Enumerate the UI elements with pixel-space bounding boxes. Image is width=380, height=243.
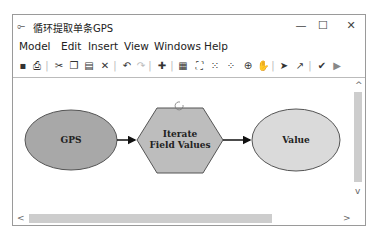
toolbar-separator: | bbox=[113, 59, 117, 73]
vertical-scroll-thumb[interactable] bbox=[354, 92, 362, 182]
menu-view[interactable]: View bbox=[124, 40, 149, 52]
horizontal-scrollbar[interactable]: < > bbox=[13, 212, 354, 225]
scroll-left-arrow[interactable]: < bbox=[17, 213, 25, 223]
save-icon[interactable]: ▪ bbox=[17, 59, 29, 73]
scroll-down-arrow[interactable]: v bbox=[355, 186, 360, 196]
toolbar-separator: | bbox=[148, 59, 152, 73]
toolbar: ▪ ⎙ | ✂ ❐ ▤ ✕ | ↶ ↷ | ✚ | ▦ ⛶ ⁙ ⁘ ⊕ ✋ | … bbox=[13, 59, 365, 75]
zoom-in-icon[interactable]: ⊕ bbox=[242, 59, 254, 73]
add-data-icon[interactable]: ✚ bbox=[156, 59, 168, 73]
model-diagram: GPS Iterate Field Values Value bbox=[13, 78, 353, 214]
window-title: 循环提取单条GPS bbox=[33, 20, 113, 35]
model-icon: ⟜ bbox=[17, 20, 25, 32]
toolbar-separator: | bbox=[170, 59, 174, 73]
run-icon[interactable]: ▶ bbox=[331, 59, 343, 73]
validate-icon[interactable]: ✔ bbox=[316, 59, 328, 73]
node-iterate-label-1: Iterate bbox=[163, 129, 198, 139]
menu-help[interactable]: Help bbox=[204, 40, 228, 52]
menu-windows[interactable]: Windows bbox=[154, 40, 201, 52]
copy-icon[interactable]: ❐ bbox=[68, 59, 80, 73]
horizontal-scroll-thumb[interactable] bbox=[29, 214, 272, 223]
minimize-button[interactable]: — bbox=[291, 18, 311, 34]
zoom-in-fixed-icon[interactable]: ⁙ bbox=[209, 59, 221, 73]
toolbar-separator: | bbox=[45, 59, 49, 73]
select-icon[interactable]: ➤ bbox=[278, 59, 290, 73]
menu-bar: Model Edit Insert View Windows Help bbox=[13, 40, 365, 56]
toolbar-separator: | bbox=[308, 59, 312, 73]
cut-icon[interactable]: ✂ bbox=[53, 59, 65, 73]
pan-icon[interactable]: ✋ bbox=[257, 59, 269, 73]
menu-edit[interactable]: Edit bbox=[61, 40, 81, 52]
menu-insert[interactable]: Insert bbox=[88, 40, 118, 52]
print-icon[interactable]: ⎙ bbox=[31, 59, 43, 73]
model-canvas[interactable]: GPS Iterate Field Values Value bbox=[13, 77, 353, 214]
scroll-right-arrow[interactable]: > bbox=[343, 213, 351, 223]
node-gps-label: GPS bbox=[61, 135, 82, 145]
menu-model[interactable]: Model bbox=[19, 40, 51, 52]
maximize-button[interactable]: ☐ bbox=[313, 18, 333, 34]
auto-layout-icon[interactable]: ▦ bbox=[177, 59, 189, 73]
title-bar: ⟜ 循环提取单条GPS — ☐ ✕ bbox=[13, 15, 365, 37]
vertical-scrollbar[interactable]: ^ v bbox=[352, 77, 365, 214]
model-builder-window: ⟜ 循环提取单条GPS — ☐ ✕ Model Edit Insert View… bbox=[12, 14, 366, 226]
node-value-label: Value bbox=[281, 135, 310, 145]
undo-icon[interactable]: ↶ bbox=[121, 59, 133, 73]
paste-icon[interactable]: ▤ bbox=[83, 59, 95, 73]
scroll-up-arrow[interactable]: ^ bbox=[355, 80, 363, 90]
node-gps[interactable]: GPS bbox=[25, 110, 117, 170]
close-button[interactable]: ✕ bbox=[341, 18, 361, 34]
node-value[interactable]: Value bbox=[252, 109, 340, 171]
connect-icon[interactable]: ↗ bbox=[294, 59, 306, 73]
delete-icon[interactable]: ✕ bbox=[99, 59, 111, 73]
zoom-out-fixed-icon[interactable]: ⁘ bbox=[225, 59, 237, 73]
toolbar-separator: | bbox=[271, 59, 275, 73]
full-extent-icon[interactable]: ⛶ bbox=[193, 59, 205, 73]
node-iterate-label-2: Field Values bbox=[149, 140, 210, 150]
redo-icon[interactable]: ↷ bbox=[135, 59, 147, 73]
node-iterate-field-values[interactable]: Iterate Field Values bbox=[137, 102, 223, 173]
